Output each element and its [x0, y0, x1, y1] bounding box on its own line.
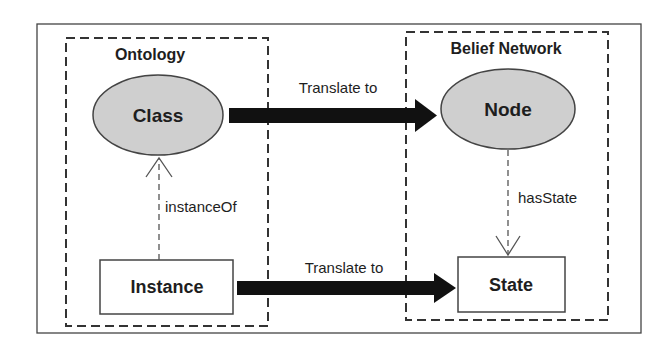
instance-label: Instance — [130, 277, 203, 297]
state-node[interactable]: State — [458, 257, 565, 312]
arrow-head-icon — [434, 273, 456, 303]
class-node[interactable]: Class — [93, 75, 223, 155]
instance-to-state-arrow: Translate to — [237, 259, 456, 303]
diagram-canvas: Ontology Belief Network Class Node Insta… — [0, 0, 672, 354]
ontology-title: Ontology — [115, 46, 185, 63]
node-label: Node — [484, 99, 532, 120]
instance-of-label: instanceOf — [165, 198, 238, 215]
has-state-label: hasState — [518, 189, 577, 206]
node-node[interactable]: Node — [441, 69, 575, 149]
arrow-shaft — [229, 108, 417, 123]
instance-node[interactable]: Instance — [100, 260, 233, 314]
arrow-shaft — [237, 281, 436, 295]
belief-network-title: Belief Network — [450, 40, 561, 57]
arrow-head-icon — [415, 99, 437, 132]
instance-of-arrow: instanceOf — [146, 158, 238, 260]
translate-to-label-bottom: Translate to — [305, 259, 384, 276]
translate-to-label-top: Translate to — [299, 79, 378, 96]
state-label: State — [489, 275, 533, 295]
class-label: Class — [133, 105, 184, 126]
has-state-arrow: hasState — [496, 150, 577, 255]
